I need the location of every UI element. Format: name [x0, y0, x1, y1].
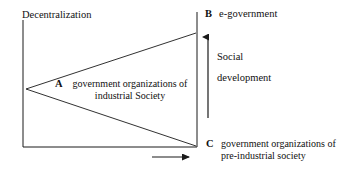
diagram-canvas: Decentralization A government organizati… — [0, 0, 342, 172]
point-c-letter: C — [206, 138, 214, 150]
point-b-label: e-government — [219, 8, 277, 20]
y-axis-label: Decentralization — [22, 9, 91, 21]
point-b-letter: B — [205, 8, 212, 20]
social-label: Social — [217, 51, 243, 63]
point-a-label: government organizations of industrial S… — [70, 78, 190, 101]
point-a-letter: A — [55, 78, 63, 90]
development-label: development — [217, 72, 271, 84]
point-c-label: government organizations of pre-industri… — [221, 138, 342, 161]
